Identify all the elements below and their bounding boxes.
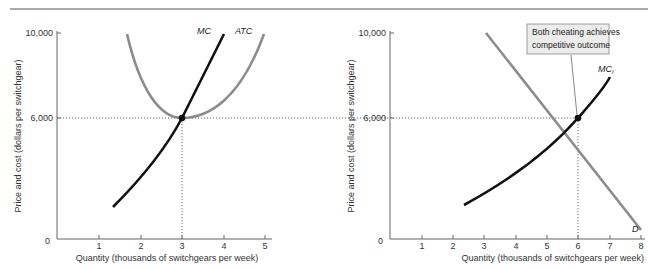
left-xtick-5: 5	[262, 241, 267, 251]
demand-curve	[486, 33, 641, 230]
atc-label: ATC	[234, 26, 253, 36]
atc-curve	[127, 34, 264, 118]
left-x-axis-label: Quantity (thousands of switchgears per w…	[76, 253, 259, 263]
right-ytick-0: 0	[378, 236, 383, 246]
figure: 10,000 6,000 0 1 2 3 4 5 Quantity (thous…	[0, 0, 648, 268]
right-equilibrium-point	[575, 115, 582, 122]
left-ytick-10000: 10,000	[25, 28, 53, 38]
right-xtick-4: 4	[513, 241, 518, 251]
right-xtick-1: 1	[419, 241, 424, 251]
right-xtick-8: 8	[638, 241, 643, 251]
right-x-axis-label: Quantity (thousands of switchgears per w…	[461, 253, 644, 263]
left-y-axis-label: Price and cost (dollars per switchgear)	[13, 59, 23, 212]
callout-line-2: competitive outcome	[532, 40, 610, 50]
right-xtick-2: 2	[450, 241, 455, 251]
right-xtick-7: 7	[607, 241, 612, 251]
left-ytick-6000: 6,000	[30, 113, 53, 123]
left-chart: 10,000 6,000 0 1 2 3 4 5 Quantity (thous…	[13, 26, 322, 263]
left-xtick-1: 1	[96, 241, 101, 251]
mc-label: MC	[197, 26, 211, 36]
callout-leader-line	[571, 55, 577, 115]
left-ytick-0: 0	[45, 236, 50, 246]
left-equilibrium-point	[179, 115, 186, 122]
mc-curve	[113, 34, 224, 207]
left-xtick-2: 2	[138, 241, 143, 251]
left-xtick-4: 4	[221, 241, 226, 251]
mc-i-label: MCI	[598, 64, 614, 75]
right-xtick-5: 5	[544, 241, 549, 251]
right-xtick-3: 3	[481, 241, 486, 251]
right-y-axis-label: Price and cost (dollars per switchgear)	[346, 59, 356, 212]
left-xtick-3: 3	[179, 241, 184, 251]
right-xtick-6: 6	[575, 241, 580, 251]
right-chart: 10,000 6,000 0 1 2 3 4 5 6 7 8 Quantity …	[324, 24, 645, 263]
demand-label: D	[632, 224, 639, 234]
right-ytick-10000: 10,000	[358, 28, 386, 38]
right-ytick-6000: 6,000	[363, 113, 386, 123]
callout-line-1: Both cheating achieves	[532, 27, 620, 37]
